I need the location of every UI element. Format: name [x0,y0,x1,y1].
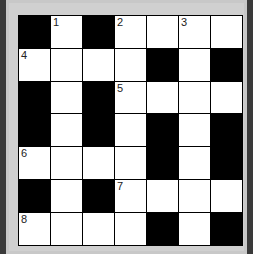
grid-cell[interactable]: 7 [115,180,146,212]
black-cell [83,16,114,48]
black-cell [211,213,242,245]
grid-cell[interactable]: 1 [51,16,82,48]
black-cell [83,114,114,146]
grid-cell[interactable] [179,49,210,81]
grid-cell[interactable]: 2 [115,16,146,48]
grid-cell[interactable]: 3 [179,16,210,48]
grid-cell[interactable] [83,49,114,81]
grid-cell[interactable] [211,82,242,114]
black-cell [211,147,242,179]
clue-number: 2 [117,17,123,28]
grid-cell[interactable] [147,82,178,114]
clue-number: 1 [53,17,59,28]
grid-cell[interactable]: 8 [19,213,50,245]
grid-cell[interactable] [51,114,82,146]
grid-cell[interactable]: 4 [19,49,50,81]
clue-number: 3 [181,17,187,28]
grid-cell[interactable] [179,82,210,114]
black-cell [19,82,50,114]
clue-number: 5 [117,83,123,94]
grid-cell[interactable] [51,213,82,245]
grid-cell[interactable] [115,49,146,81]
grid-cell[interactable] [115,114,146,146]
clue-number: 8 [21,214,27,225]
grid-cell[interactable] [147,16,178,48]
grid-cell[interactable]: 5 [115,82,146,114]
black-cell [147,114,178,146]
clue-number: 7 [117,181,123,192]
black-cell [147,147,178,179]
black-cell [19,16,50,48]
black-cell [19,114,50,146]
grid-cell[interactable] [179,147,210,179]
grid-cell[interactable] [51,82,82,114]
clue-number: 4 [21,50,27,61]
black-cell [83,180,114,212]
black-cell [211,114,242,146]
grid-cell[interactable] [51,49,82,81]
black-cell [83,82,114,114]
grid-cell[interactable] [51,147,82,179]
grid-cell[interactable] [83,147,114,179]
black-cell [211,49,242,81]
grid-cell[interactable] [211,180,242,212]
grid-cell[interactable] [179,180,210,212]
grid-cell[interactable] [115,213,146,245]
grid-cell[interactable] [83,213,114,245]
grid-cell[interactable] [51,180,82,212]
grid-cell[interactable] [179,213,210,245]
grid-cell[interactable] [211,16,242,48]
clue-number: 6 [21,148,27,159]
grid-cell[interactable]: 6 [19,147,50,179]
grid-cell[interactable] [179,114,210,146]
black-cell [19,180,50,212]
black-cell [147,213,178,245]
grid-cell[interactable] [147,180,178,212]
black-cell [147,49,178,81]
crossword-grid: 12345678 [18,15,243,246]
grid-cell[interactable] [115,147,146,179]
